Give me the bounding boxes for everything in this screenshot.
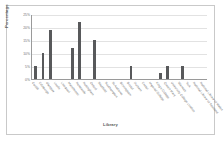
- y-tick-label: 10%: [10, 52, 30, 56]
- gridline: [32, 28, 207, 29]
- bar: [71, 48, 74, 79]
- y-axis-tick-labels: 25%20%15%10%5%0%: [9, 10, 31, 85]
- gridline: [32, 15, 207, 16]
- bar: [49, 30, 52, 79]
- gridline: [32, 41, 207, 42]
- chart-container: Percentage 25%20%15%10%5%0% CardiffEdinb…: [6, 5, 215, 135]
- bar: [34, 66, 37, 79]
- y-tick-label: 20%: [10, 26, 30, 30]
- gridline: [32, 54, 207, 55]
- y-tick-label: 25%: [10, 13, 30, 17]
- y-tick-label: 5%: [10, 65, 30, 69]
- y-tick-label: 15%: [10, 39, 30, 43]
- bar: [42, 53, 45, 79]
- bar: [181, 66, 184, 79]
- bar: [159, 73, 162, 80]
- bar: [166, 66, 169, 79]
- bar: [78, 22, 81, 79]
- bar: [93, 40, 96, 79]
- y-tick-label: 0%: [10, 78, 30, 82]
- x-axis-title: Library: [7, 122, 214, 127]
- plot-area: [31, 15, 207, 80]
- bar: [130, 66, 133, 79]
